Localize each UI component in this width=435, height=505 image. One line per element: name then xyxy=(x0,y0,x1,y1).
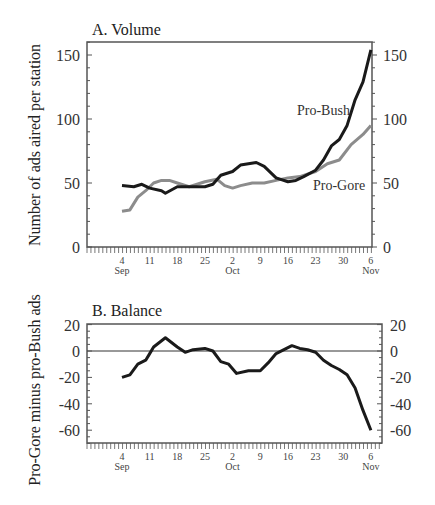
volume-y-tick-labels: 005050100100150150 xyxy=(56,47,407,256)
balance-panel: B. Balance -60-60-40-40-20-20002020 4111… xyxy=(26,294,411,486)
svg-text:50: 50 xyxy=(64,175,80,192)
volume-axis-ticks xyxy=(87,42,377,253)
svg-text:30: 30 xyxy=(338,451,348,462)
volume-plot-frame xyxy=(87,42,372,247)
svg-text:-60: -60 xyxy=(390,422,411,439)
svg-text:-40: -40 xyxy=(390,396,411,413)
svg-text:11: 11 xyxy=(145,255,155,266)
balance-y-tick-labels: -60-60-40-40-20-20002020 xyxy=(59,317,412,440)
svg-text:20: 20 xyxy=(64,317,80,334)
svg-text:-20: -20 xyxy=(59,369,80,386)
svg-text:-20: -20 xyxy=(390,369,411,386)
pro-bush-line xyxy=(122,50,371,193)
volume-title: A. Volume xyxy=(92,21,161,38)
svg-text:Sep: Sep xyxy=(115,265,130,276)
svg-text:100: 100 xyxy=(383,111,407,128)
svg-text:0: 0 xyxy=(383,239,391,256)
svg-text:16: 16 xyxy=(283,451,293,462)
svg-text:0: 0 xyxy=(72,239,80,256)
balance-plot-frame xyxy=(87,324,382,443)
pro-gore-label: Pro-Gore xyxy=(313,178,365,193)
balance-y-axis-title: Pro-Gore minus pro-Bush ads xyxy=(26,294,44,486)
svg-text:0: 0 xyxy=(72,343,80,360)
svg-text:23: 23 xyxy=(311,451,321,462)
svg-text:18: 18 xyxy=(172,255,182,266)
svg-text:9: 9 xyxy=(258,451,263,462)
volume-x-tick-labels: 4111825291623306SepOctNov xyxy=(115,255,380,276)
svg-text:20: 20 xyxy=(390,317,406,334)
svg-text:Oct: Oct xyxy=(225,265,240,276)
svg-text:Nov: Nov xyxy=(362,265,379,276)
svg-text:-40: -40 xyxy=(59,396,80,413)
svg-text:16: 16 xyxy=(283,255,293,266)
svg-text:25: 25 xyxy=(200,451,210,462)
svg-text:100: 100 xyxy=(56,111,80,128)
chart-canvas: A. Volume 005050100100150150 41118252916… xyxy=(0,0,435,505)
balance-axis-ticks xyxy=(87,325,382,449)
svg-text:Oct: Oct xyxy=(225,461,240,472)
svg-text:25: 25 xyxy=(200,255,210,266)
svg-text:50: 50 xyxy=(383,175,399,192)
svg-text:-60: -60 xyxy=(59,422,80,439)
svg-text:9: 9 xyxy=(258,255,263,266)
svg-text:Nov: Nov xyxy=(362,461,379,472)
svg-text:30: 30 xyxy=(338,255,348,266)
svg-text:150: 150 xyxy=(56,47,80,64)
svg-text:11: 11 xyxy=(145,451,155,462)
volume-y-axis-title: Number of ads aired per station xyxy=(26,44,44,246)
volume-panel: A. Volume 005050100100150150 41118252916… xyxy=(26,21,407,276)
balance-line xyxy=(122,338,371,430)
balance-title: B. Balance xyxy=(92,302,162,319)
svg-text:Sep: Sep xyxy=(115,461,130,472)
pro-gore-line xyxy=(122,125,371,211)
svg-text:150: 150 xyxy=(383,47,407,64)
balance-x-tick-labels: 4111825291623306SepOctNov xyxy=(115,451,380,472)
svg-text:18: 18 xyxy=(172,451,182,462)
pro-bush-label: Pro-Bush xyxy=(297,103,350,118)
svg-text:23: 23 xyxy=(311,255,321,266)
svg-text:0: 0 xyxy=(390,343,398,360)
